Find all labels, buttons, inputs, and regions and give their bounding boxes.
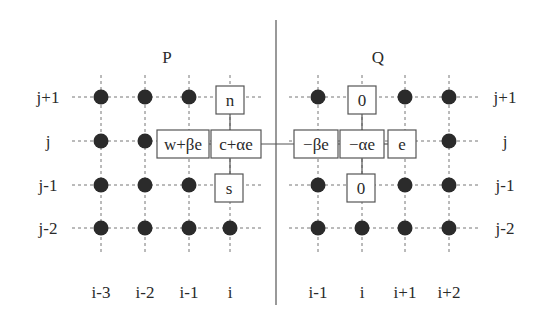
grid-point xyxy=(311,90,326,105)
grid-point xyxy=(182,178,197,193)
column-label: i-3 xyxy=(92,283,111,302)
stencil-box-q-n: 0 xyxy=(348,86,376,114)
row-label: j+1 xyxy=(493,88,517,107)
grid-point xyxy=(138,134,153,149)
column-label: i xyxy=(360,283,365,302)
grid-point xyxy=(138,178,153,193)
grid-point xyxy=(398,90,413,105)
grid-points xyxy=(94,90,457,236)
grid-point xyxy=(442,90,457,105)
row-label: j-2 xyxy=(495,219,515,238)
grid-point xyxy=(94,90,109,105)
row-label: j-2 xyxy=(38,219,58,238)
grid-point xyxy=(398,178,413,193)
row-label: j xyxy=(502,132,508,151)
grid-point xyxy=(94,178,109,193)
column-label: i+2 xyxy=(438,283,461,302)
stencil-box-q-s: 0 xyxy=(347,174,375,202)
panel-title-q: Q xyxy=(372,48,384,67)
grid-point xyxy=(442,221,457,236)
row-label: j-1 xyxy=(38,176,58,195)
column-label: i+1 xyxy=(394,283,417,302)
stencil-box-q-e: e xyxy=(388,130,416,158)
stencil-box-p-n: n xyxy=(216,86,244,114)
stencil-diagram: nw+βec+αes0−βe−αee0 Pi-3i-2i-1ij+1jj-1j-… xyxy=(0,0,541,334)
stencil-box-label: 0 xyxy=(357,179,366,198)
column-label: i-1 xyxy=(309,283,328,302)
grid-point xyxy=(138,90,153,105)
row-label: j+1 xyxy=(36,88,60,107)
stencil-box-label: w+βe xyxy=(164,135,202,154)
grid-point xyxy=(442,134,457,149)
grid-point xyxy=(355,221,370,236)
grid-point xyxy=(94,134,109,149)
column-label: i-1 xyxy=(180,283,199,302)
panel-title-p: P xyxy=(162,48,171,67)
dashed-grid xyxy=(72,75,478,255)
grid-point xyxy=(311,178,326,193)
column-label: i xyxy=(228,283,233,302)
grid-point xyxy=(223,221,238,236)
stencil-box-p-c: c+αe xyxy=(211,130,261,158)
stencil-box-label: c+αe xyxy=(219,135,253,154)
grid-point xyxy=(311,221,326,236)
row-label: j-1 xyxy=(495,176,515,195)
stencil-box-label: e xyxy=(398,135,406,154)
stencil-box-q-w: −βe xyxy=(294,130,338,158)
column-label: i-2 xyxy=(136,283,155,302)
stencil-box-q-c: −αe xyxy=(340,130,384,158)
stencil-box-label: 0 xyxy=(358,91,367,110)
stencil-box-label: −αe xyxy=(349,135,375,154)
stencil-box-p-s: s xyxy=(215,174,243,202)
stencil-box-label: −βe xyxy=(303,135,329,154)
stencil-box-label: n xyxy=(226,91,235,110)
grid-point xyxy=(138,221,153,236)
grid-point xyxy=(182,221,197,236)
grid-point xyxy=(94,221,109,236)
stencil-box-p-w: w+βe xyxy=(157,130,209,158)
grid-point xyxy=(182,90,197,105)
row-label: j xyxy=(45,132,51,151)
stencil-box-label: s xyxy=(226,179,233,198)
grid-point xyxy=(442,178,457,193)
grid-point xyxy=(398,221,413,236)
